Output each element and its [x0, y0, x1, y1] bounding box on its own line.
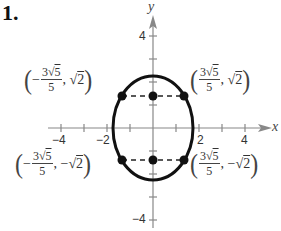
point-top-right — [180, 92, 189, 101]
x-axis-label: x — [272, 119, 278, 135]
point-bottom-left — [118, 156, 127, 165]
x-tick-label: −2 — [96, 133, 110, 147]
point-bottom-center — [149, 156, 158, 165]
y-tick-label: 4 — [139, 29, 146, 43]
fraction: 3√5 5 — [199, 66, 220, 93]
point-bottom-right — [180, 156, 189, 165]
fraction: 3√5 5 — [199, 150, 220, 177]
point-label-top-right: ( 3√5 5 , √2 ) — [190, 66, 250, 93]
x-tick-label: 4 — [241, 133, 248, 147]
y-tick-label: −4 — [132, 212, 146, 226]
fraction: 3√5 5 — [32, 150, 53, 177]
x-tick-label: −4 — [52, 133, 66, 147]
y-axis-label: y — [148, 0, 154, 15]
y-axis — [149, 22, 157, 228]
x-tick-label: 2 — [197, 133, 204, 147]
point-top-center — [149, 92, 158, 101]
point-top-left — [118, 92, 127, 101]
x-axis — [48, 124, 265, 132]
ellipse-diagram: 1. — [0, 0, 281, 231]
fraction: 3√5 5 — [41, 66, 62, 93]
point-label-bottom-left: ( − 3√5 5 , −√2 ) — [15, 150, 91, 177]
point-label-bottom-right: ( 3√5 5 , −√2 ) — [190, 150, 258, 177]
point-label-top-left: ( − 3√5 5 , √2 ) — [24, 66, 92, 93]
